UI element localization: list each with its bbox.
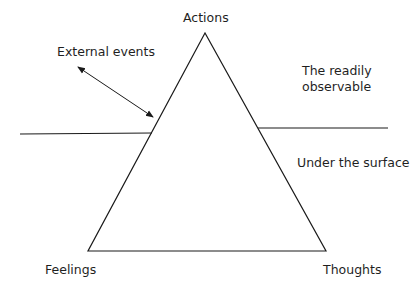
- label-feelings: Feelings: [45, 262, 96, 278]
- iceberg-diagram: Actions External events The readily obse…: [0, 0, 419, 290]
- label-external-events: External events: [57, 44, 155, 60]
- triangle: [88, 33, 326, 251]
- label-readily-observable-1: The readily: [302, 63, 372, 79]
- label-actions: Actions: [183, 10, 229, 26]
- label-thoughts: Thoughts: [323, 262, 381, 278]
- surface-line-left: [20, 133, 152, 134]
- label-under-the-surface: Under the surface: [297, 155, 410, 171]
- label-readily-observable-2: observable: [302, 79, 371, 95]
- external-events-arrow: [78, 67, 153, 117]
